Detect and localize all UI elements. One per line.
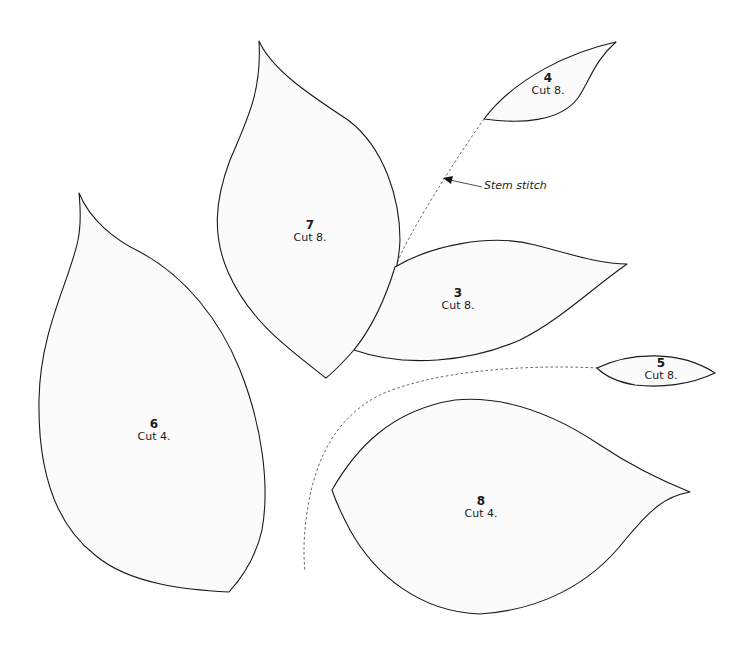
piece-label-5: 5 Cut 8. [645, 357, 678, 382]
piece-label-4: 4 Cut 8. [532, 72, 565, 97]
piece-cut-count: Cut 8. [645, 370, 678, 382]
piece-cut-count: Cut 8. [442, 300, 475, 312]
piece-label-7: 7 Cut 8. [294, 219, 327, 244]
piece-cut-count: Cut 8. [294, 232, 327, 244]
piece-cut-count: Cut 8. [532, 85, 565, 97]
piece-label-6: 6 Cut 4. [138, 418, 171, 443]
piece-label-8: 8 Cut 4. [465, 495, 498, 520]
pattern-canvas [0, 0, 748, 646]
stem-stitch-pointer [450, 180, 482, 187]
leaf-piece-8 [332, 399, 690, 614]
piece-cut-count: Cut 4. [138, 431, 171, 443]
piece-cut-count: Cut 4. [465, 508, 498, 520]
stem-stitch-label: Stem stitch [484, 179, 547, 192]
piece-label-3: 3 Cut 8. [442, 287, 475, 312]
arrowhead-icon [443, 176, 453, 184]
